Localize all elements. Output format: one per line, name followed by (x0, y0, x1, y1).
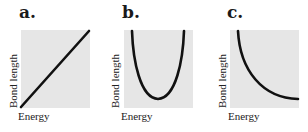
panel-a-curve (21, 31, 89, 107)
curves-layer (0, 0, 308, 132)
panel-c-curve (238, 31, 298, 99)
panel-b-curve (132, 31, 184, 99)
